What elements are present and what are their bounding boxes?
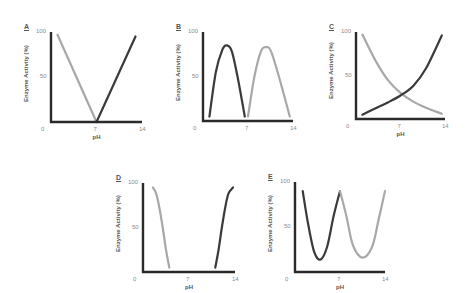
y-axis-label: Enzyme Activity (%) [267, 195, 273, 252]
panel-letter: E [268, 173, 273, 180]
series-dark [303, 191, 340, 260]
x-tick-7: 7 [337, 276, 340, 282]
plot-area [0, 0, 467, 293]
y-tick-100: 100 [280, 178, 290, 184]
x-tick-14: 14 [382, 276, 389, 282]
x-axis-label: pH [336, 284, 344, 290]
series-light [340, 191, 385, 258]
x-tick-0: 0 [285, 276, 288, 282]
y-tick-50: 50 [284, 223, 291, 229]
